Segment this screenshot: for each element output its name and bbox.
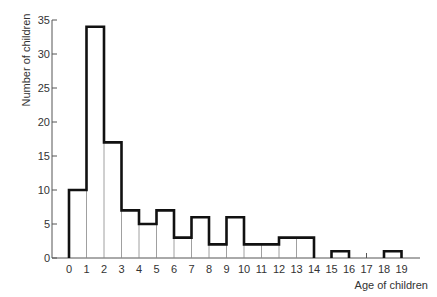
x-tick-label: 3 [118, 263, 124, 275]
x-tick-label: 13 [290, 263, 302, 275]
y-tick-label: 0 [44, 252, 50, 264]
x-tick-label: 5 [153, 263, 159, 275]
x-tick-label: 10 [238, 263, 250, 275]
x-tick-label: 15 [325, 263, 337, 275]
x-tick-label: 4 [136, 263, 142, 275]
x-tick-label: 19 [395, 263, 407, 275]
y-tick-label: 5 [44, 218, 50, 230]
y-tick-label: 30 [38, 48, 50, 60]
x-axis-title: Age of children [355, 279, 428, 291]
x-axis: 012345678910111213141516171819 [52, 253, 420, 275]
x-tick-label: 16 [343, 263, 355, 275]
histogram-chart: 05101520253035 0123456789101112131415161… [0, 0, 437, 297]
x-tick-label: 12 [273, 263, 285, 275]
x-tick-label: 9 [223, 263, 229, 275]
y-tick-label: 20 [38, 116, 50, 128]
x-tick-label: 7 [188, 263, 194, 275]
y-tick-label: 15 [38, 150, 50, 162]
bin-dividers [87, 142, 297, 258]
histogram-outline [69, 27, 402, 258]
y-tick-label: 10 [38, 184, 50, 196]
x-tick-label: 6 [171, 263, 177, 275]
y-tick-label: 25 [38, 82, 50, 94]
x-tick-label: 2 [101, 263, 107, 275]
x-tick-label: 11 [256, 263, 267, 275]
x-tick-label: 17 [360, 263, 372, 275]
x-tick-label: 1 [83, 263, 89, 275]
y-axis: 05101520253035 [38, 14, 57, 264]
x-tick-label: 18 [378, 263, 390, 275]
x-tick-label: 14 [308, 263, 320, 275]
y-axis-title: Number of children [20, 14, 32, 107]
x-tick-label: 0 [66, 263, 72, 275]
y-tick-label: 35 [38, 14, 50, 26]
x-tick-label: 8 [206, 263, 212, 275]
